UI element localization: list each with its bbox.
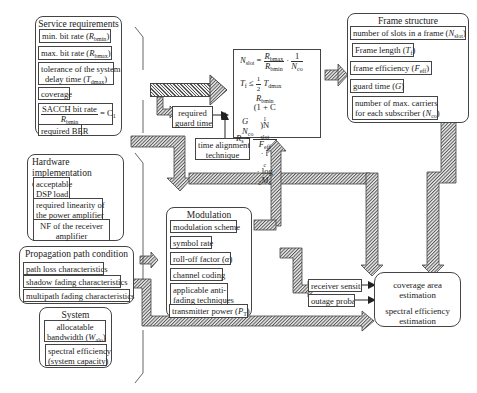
formula-box: Nslot = RbmaxRbmin · 1Nco Tf ≤ 12 Tdmax … bbox=[233, 49, 321, 138]
coverage-estimation-line1: coverage area bbox=[375, 280, 460, 290]
receiver-sensitivity: receiver sensitivity bbox=[308, 279, 362, 292]
formula-nco: Nco bbox=[242, 126, 253, 136]
allocatable-bandwidth: allocatable bandwidth (Walo) bbox=[44, 320, 106, 342]
required-guard-time: requiredguard time bbox=[172, 106, 213, 128]
slots-in-frame: number of slots in a frame (Nslot) bbox=[350, 26, 466, 40]
required-ber: required BER bbox=[38, 124, 82, 136]
max-carriers: number of max. carriers for each subscri… bbox=[352, 96, 438, 120]
anti-fading-techniques: applicable anti-fading techniques bbox=[170, 283, 228, 305]
min-bit-rate: min. bit rate (Rbmin) bbox=[39, 29, 111, 43]
path-loss: path loss characteristics bbox=[23, 262, 104, 275]
propagation-title: Propagation path condition bbox=[20, 249, 133, 260]
modulation-scheme: modulation scheme bbox=[170, 220, 237, 233]
spectral-estimation-line2: estimation bbox=[375, 316, 460, 326]
dsp-load: acceptableDSP load bbox=[33, 177, 70, 199]
formula-rs: Rs = Rbmin(1 + C1)NslotFeff · rc · log2M… bbox=[236, 94, 277, 185]
spectral-efficiency-capacity: spectral efficiency(system capacity) bbox=[45, 344, 107, 366]
guard-time: guard time (G) bbox=[350, 79, 404, 93]
channel-coding: channel coding bbox=[170, 268, 223, 281]
symbol-rate: symbol rate bbox=[170, 236, 212, 249]
power-amplifier-linearity: required linearity ofthe power amplifier bbox=[33, 198, 103, 220]
formula-g: G bbox=[242, 116, 248, 126]
roll-off-factor: roll-off factor (α) bbox=[170, 252, 231, 265]
shadow-fading: shadow fading characteristics bbox=[23, 275, 121, 288]
multipath-fading: multipath fading characteristics bbox=[23, 289, 130, 302]
receiver-nf: NF of the receiveramplifier bbox=[33, 219, 110, 241]
spectral-estimation-line1: spectral efficiency bbox=[375, 306, 460, 316]
formula-tf: Tf ≤ 12 Tdmax bbox=[240, 75, 282, 94]
transmitter-power: transmitter power (PT) bbox=[169, 304, 248, 318]
frame-efficiency: frame efficiency (Feff) bbox=[350, 61, 432, 75]
frame-length: Frame length (Tf) bbox=[352, 43, 414, 57]
outage-probability: outage probability bbox=[308, 294, 355, 307]
estimation-box: coverage area estimation spectral effici… bbox=[374, 272, 461, 327]
delay-tolerance: tolerance of the system delay time (Tdma… bbox=[38, 62, 114, 85]
max-bit-rate: max. bit rate (Rbmax) bbox=[38, 46, 112, 60]
coverage-estimation-line2: estimation bbox=[375, 290, 460, 300]
coverage: coverage bbox=[38, 87, 70, 100]
sacch-bit-rate: SACCH bit rateRbmin = C1 bbox=[38, 103, 113, 125]
formula-nslot: Nslot = RbmaxRbmin · 1Nco bbox=[240, 52, 303, 71]
